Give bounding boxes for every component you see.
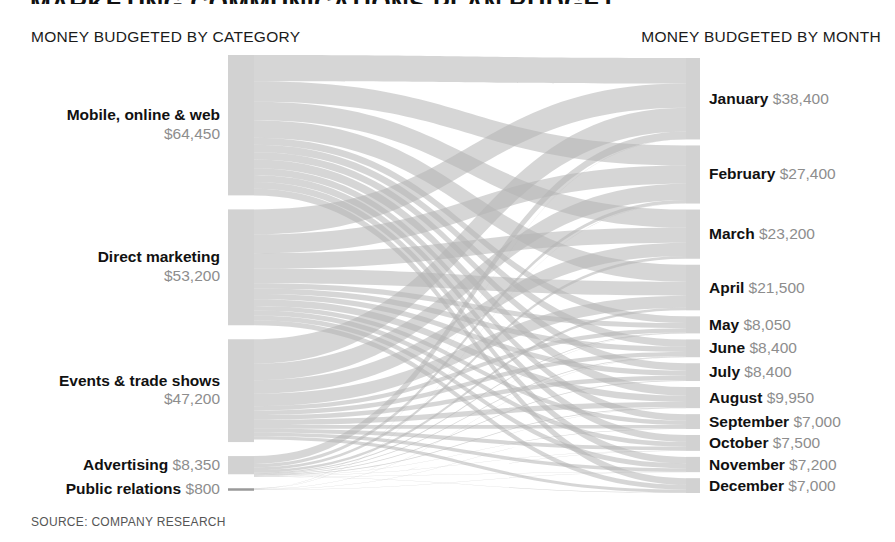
- sankey-links: [254, 55, 686, 493]
- month-value: $7,000: [789, 413, 841, 430]
- sankey-source-nodes: [228, 55, 254, 491]
- sankey-target-node: [686, 457, 700, 472]
- sankey-target-node: [686, 210, 700, 259]
- sankey-target-node: [686, 478, 700, 493]
- sankey-target-node: [686, 339, 700, 357]
- month-label-2: February $27,400: [709, 165, 836, 182]
- infographic-canvas: MARKETING COMMUNICATIONS PLAN BUDGET MON…: [0, 0, 895, 542]
- sankey-source-node: [228, 488, 254, 491]
- month-name: February: [709, 165, 775, 182]
- sankey-source-node: [228, 55, 254, 195]
- sankey-target-node: [686, 145, 700, 203]
- sankey-target-node: [686, 265, 700, 311]
- month-name: March: [709, 225, 755, 242]
- month-name: January: [709, 90, 768, 107]
- category-label-3: Events & trade shows$47,200: [20, 372, 220, 409]
- category-label-5: Public relations $800: [20, 480, 220, 499]
- sankey-target-node: [686, 316, 700, 333]
- category-value: $47,200: [20, 390, 220, 409]
- sankey-target-nodes: [686, 58, 700, 493]
- month-label-8: August $9,950: [709, 389, 814, 406]
- month-label-1: January $38,400: [709, 90, 829, 107]
- month-value: $9,950: [762, 389, 814, 406]
- sankey-link: [254, 55, 686, 83]
- month-name: October: [709, 434, 768, 451]
- month-name: November: [709, 456, 785, 473]
- sankey-link: [254, 425, 686, 429]
- month-label-7: July $8,400: [709, 363, 792, 380]
- month-value: $8,400: [745, 339, 797, 356]
- month-value: $8,400: [740, 363, 792, 380]
- month-name: September: [709, 413, 789, 430]
- category-name: Advertising: [83, 456, 168, 473]
- month-label-9: September $7,000: [709, 413, 841, 430]
- sankey-target-node: [686, 414, 700, 429]
- sankey-source-node: [228, 339, 254, 442]
- month-name: May: [709, 316, 739, 333]
- category-label-2: Direct marketing$53,200: [20, 248, 220, 285]
- category-name: Mobile, online & web: [20, 106, 220, 125]
- category-name: Events & trade shows: [20, 372, 220, 391]
- sankey-source-node: [228, 456, 254, 474]
- month-name: April: [709, 279, 744, 296]
- month-value: $27,400: [775, 165, 835, 182]
- category-value: $53,200: [20, 267, 220, 286]
- month-name: August: [709, 389, 762, 406]
- month-label-3: March $23,200: [709, 225, 815, 242]
- month-label-4: April $21,500: [709, 279, 805, 296]
- sankey-target-node: [686, 435, 700, 451]
- month-label-11: November $7,200: [709, 456, 837, 473]
- source-note: SOURCE: COMPANY RESEARCH: [31, 515, 226, 529]
- month-value: $8,050: [739, 316, 791, 333]
- sankey-link: [254, 436, 686, 492]
- month-value: $7,200: [785, 456, 837, 473]
- month-name: December: [709, 477, 784, 494]
- category-value: $800: [181, 480, 220, 497]
- month-value: $38,400: [768, 90, 828, 107]
- month-value: $21,500: [744, 279, 804, 296]
- month-label-10: October $7,500: [709, 434, 820, 451]
- category-value: $64,450: [20, 125, 220, 144]
- month-label-6: June $8,400: [709, 339, 797, 356]
- month-name: June: [709, 339, 745, 356]
- month-value: $7,500: [768, 434, 820, 451]
- month-name: July: [709, 363, 740, 380]
- category-name: Direct marketing: [20, 248, 220, 267]
- sankey-source-node: [228, 209, 254, 325]
- sankey-target-node: [686, 363, 700, 381]
- category-label-1: Mobile, online & web$64,450: [20, 106, 220, 143]
- month-label-5: May $8,050: [709, 316, 791, 333]
- category-label-4: Advertising $8,350: [20, 456, 220, 475]
- sankey-target-node: [686, 58, 700, 139]
- sankey-target-node: [686, 387, 700, 408]
- month-label-12: December $7,000: [709, 477, 836, 494]
- category-value: $8,350: [168, 456, 220, 473]
- month-value: $7,000: [784, 477, 836, 494]
- month-value: $23,200: [755, 225, 815, 242]
- category-name: Public relations: [66, 480, 181, 497]
